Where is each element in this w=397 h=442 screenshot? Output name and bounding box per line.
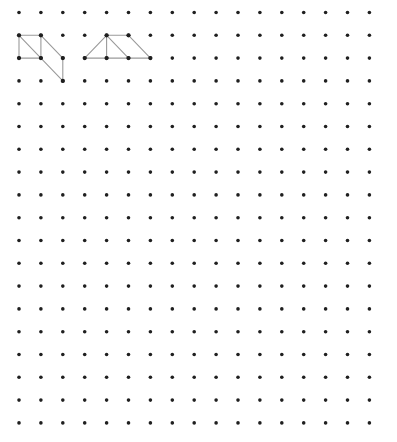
grid-dot <box>214 125 218 129</box>
grid-dot <box>346 216 350 220</box>
figure-vertex <box>61 56 65 60</box>
grid-dot <box>258 398 262 402</box>
grid-dot <box>236 239 240 243</box>
grid-dot <box>39 216 43 220</box>
grid-dot <box>346 56 350 60</box>
grid-dot <box>324 216 328 220</box>
grid-dot <box>236 34 240 38</box>
grid-dot <box>302 34 306 38</box>
grid-dot <box>346 421 350 425</box>
grid-dot <box>324 376 328 380</box>
grid-dot <box>368 170 372 174</box>
grid-dot <box>214 170 218 174</box>
grid-dot <box>368 11 372 15</box>
grid-dot <box>39 307 43 311</box>
grid-dot <box>149 330 153 334</box>
grid-dot <box>105 284 109 288</box>
grid-dot <box>17 102 21 106</box>
grid-dot <box>83 125 87 129</box>
grid-dot <box>280 193 284 197</box>
grid-dot <box>171 262 175 266</box>
figure-vertex <box>105 56 109 60</box>
grid-dot <box>324 102 328 106</box>
grid-dot <box>258 239 262 243</box>
grid-dot <box>324 170 328 174</box>
grid-dot <box>39 125 43 129</box>
grid-dot <box>214 330 218 334</box>
grid-dot <box>368 148 372 152</box>
grid-dot <box>83 421 87 425</box>
figure-vertex <box>17 33 21 37</box>
grid-dot <box>192 148 196 152</box>
grid-dot <box>127 398 131 402</box>
figure-edge <box>129 35 151 58</box>
grid-dot <box>324 148 328 152</box>
grid-dot <box>39 239 43 243</box>
grid-dot <box>39 330 43 334</box>
grid-dot <box>61 376 65 380</box>
grid-dot <box>324 330 328 334</box>
grid-dot <box>39 398 43 402</box>
grid-dot <box>280 216 284 220</box>
grid-dot <box>324 353 328 357</box>
grid-dot <box>214 216 218 220</box>
grid-dot <box>127 330 131 334</box>
grid-dot <box>83 353 87 357</box>
grid-dot <box>17 216 21 220</box>
grid-dot <box>346 193 350 197</box>
grid-dot <box>17 193 21 197</box>
grid-dot <box>192 216 196 220</box>
grid-dot <box>17 239 21 243</box>
grid-dot <box>280 284 284 288</box>
grid-dot <box>61 307 65 311</box>
grid-dot <box>236 376 240 380</box>
grid-dot <box>324 262 328 266</box>
grid-dot <box>236 398 240 402</box>
grid-dot <box>280 170 284 174</box>
grid-dot <box>127 170 131 174</box>
grid-dot <box>302 56 306 60</box>
grid-dot <box>258 330 262 334</box>
grid-dot <box>258 307 262 311</box>
grid-dot <box>368 56 372 60</box>
grid-dot <box>149 353 153 357</box>
figure-vertex <box>126 56 130 60</box>
grid-dot <box>105 193 109 197</box>
grid-dot <box>236 421 240 425</box>
grid-dot <box>192 79 196 83</box>
grid-dot <box>302 216 306 220</box>
grid-dot <box>105 353 109 357</box>
grid-dot <box>17 79 21 83</box>
grid-dot <box>368 34 372 38</box>
grid-dot <box>236 11 240 15</box>
grid-dot <box>61 125 65 129</box>
grid-dot <box>127 262 131 266</box>
grid-dot <box>39 376 43 380</box>
grid-dot <box>17 353 21 357</box>
grid-dot <box>302 102 306 106</box>
grid-dot <box>214 148 218 152</box>
grid-dot <box>236 170 240 174</box>
grid-dot <box>83 330 87 334</box>
grid-dot <box>171 307 175 311</box>
grid-dot <box>105 11 109 15</box>
figure-edge <box>41 58 63 81</box>
grid-dot <box>149 102 153 106</box>
grid-dot <box>302 239 306 243</box>
grid-dot <box>149 148 153 152</box>
grid-dot <box>236 56 240 60</box>
grid-dot <box>39 262 43 266</box>
grid-dot <box>171 170 175 174</box>
grid-dot <box>192 34 196 38</box>
grid-dot <box>127 421 131 425</box>
grid-dot <box>346 307 350 311</box>
grid-dot <box>302 125 306 129</box>
grid-dot <box>368 262 372 266</box>
grid-dot <box>149 376 153 380</box>
grid-dot <box>192 125 196 129</box>
figure-vertex <box>83 56 87 60</box>
grid-dot <box>280 239 284 243</box>
grid-dot <box>192 11 196 15</box>
grid-dot <box>105 421 109 425</box>
grid-dot <box>39 148 43 152</box>
